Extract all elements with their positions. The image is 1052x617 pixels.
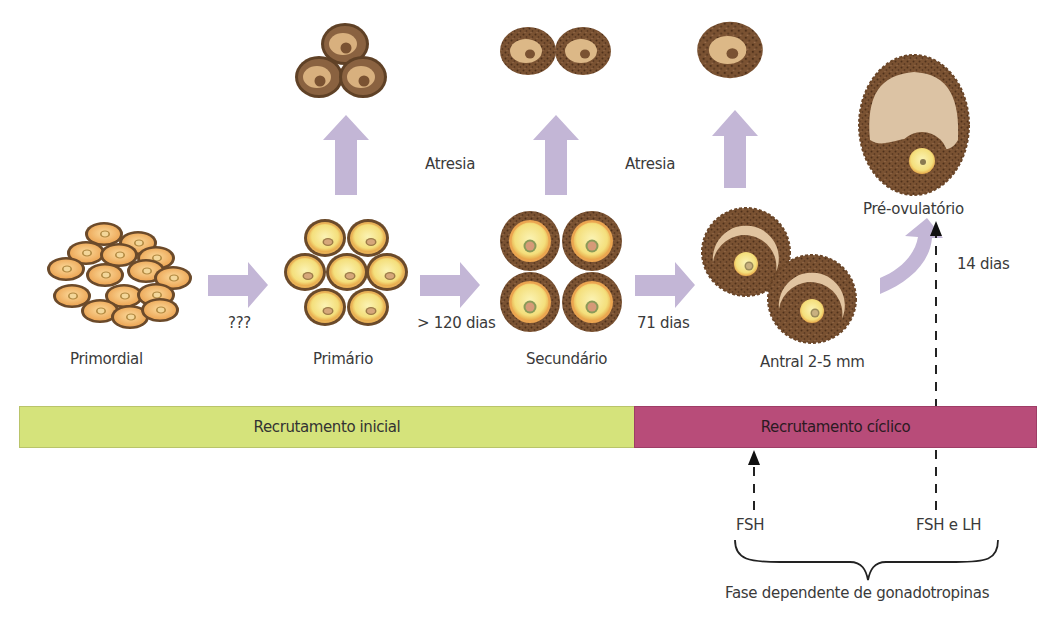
atretic-primary-follicles-icon: [295, 23, 387, 98]
transition-label-71-days: 71 dias: [637, 314, 689, 332]
fsh-label: FSH: [736, 516, 764, 534]
initial-recruitment-label: Recrutamento inicial: [254, 418, 401, 436]
stage-label-primary: Primário: [313, 350, 373, 368]
initial-recruitment-bar: Recrutamento inicial: [19, 406, 634, 448]
arrow-secondary-to-antral: [635, 262, 695, 308]
primary-follicles-icon: [284, 219, 408, 326]
cyclic-recruitment-bar: Recrutamento cíclico: [634, 406, 1037, 448]
fsh-arrowhead-icon: [748, 450, 760, 465]
follicle-diagram-art: [0, 0, 1052, 617]
atretic-secondary-follicles-icon: [500, 27, 611, 75]
cyclic-recruitment-label: Recrutamento cíclico: [761, 418, 911, 436]
stage-label-primordial: Primordial: [70, 350, 143, 368]
stage-label-pre-ovulatory: Pré-ovulatório: [863, 200, 964, 218]
stage-label-antral: Antral 2-5 mm: [760, 353, 865, 371]
atresia-arrow-1: [323, 115, 369, 195]
gonadotropin-brace: [735, 540, 998, 580]
arrow-primordial-to-primary: [208, 262, 268, 308]
transition-label-120-days: > 120 dias: [417, 314, 495, 332]
fsh-lh-label: FSH e LH: [916, 516, 981, 534]
arrow-primary-to-secondary: [420, 262, 480, 308]
antral-follicles-icon: [702, 208, 856, 343]
secondary-follicles-icon: [500, 211, 622, 332]
primordial-follicles-icon: [47, 222, 192, 329]
pre-ovulatory-follicle-icon: [859, 55, 969, 195]
atresia-arrow-3: [712, 110, 758, 188]
gonadotropin-phase-label: Fase dependente de gonadotropinas: [725, 584, 989, 602]
atretic-antral-follicle-icon: [697, 22, 763, 78]
atresia-label-2: Atresia: [625, 155, 675, 173]
stage-label-secondary: Secundário: [526, 350, 607, 368]
atresia-label-1: Atresia: [425, 155, 475, 173]
atresia-arrow-2: [533, 115, 579, 195]
transition-label-14-days: 14 dias: [957, 255, 1009, 273]
transition-label-unknown: ???: [228, 314, 251, 332]
